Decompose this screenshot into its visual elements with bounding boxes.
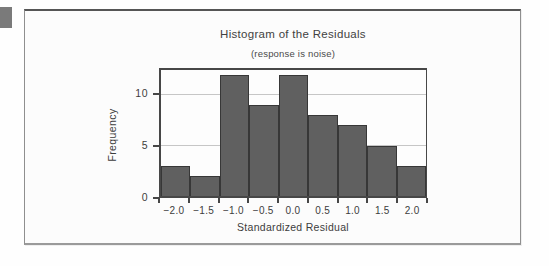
histogram-bar--1.5 [190, 176, 219, 196]
page-margin-square [0, 7, 12, 28]
x-tick-label-1: 1.0 [345, 205, 360, 216]
chart-subtitle: (response is noise) [159, 48, 427, 59]
y-tick-label-5: 5 [142, 139, 148, 151]
plot-area [159, 68, 427, 198]
histogram-bar-0 [279, 75, 308, 196]
y-axis-ticks [152, 68, 159, 198]
x-tick-label--1.5: −1.5 [193, 205, 214, 216]
x-axis-tick [366, 198, 368, 203]
x-axis-tick [426, 198, 428, 203]
y-axis-labels: 0510 [117, 68, 148, 198]
figure-panel: Histogram of the Residuals (response is … [24, 9, 521, 245]
x-tick-label-0.5: 0.5 [315, 205, 330, 216]
x-axis-tick [218, 198, 220, 203]
x-axis-title: Standardized Residual [159, 221, 427, 233]
x-tick-label--0.5: −0.5 [253, 205, 274, 216]
x-axis-labels: −2.0−1.5−1.0−0.50.00.51.01.52.0 [159, 205, 427, 217]
x-axis-tick [247, 198, 249, 203]
x-tick-label-2: 2.0 [405, 205, 420, 216]
bars-layer [161, 70, 426, 196]
x-tick-label--2: −2.0 [163, 205, 184, 216]
histogram-bar-1 [338, 125, 367, 196]
x-axis-ticks [159, 198, 427, 204]
histogram-bar-1.5 [367, 146, 396, 196]
x-axis-tick [277, 198, 279, 203]
x-axis-tick [188, 198, 190, 203]
x-axis-tick [337, 198, 339, 203]
y-tick-label-0: 0 [142, 191, 148, 203]
histogram-bar--0.5 [249, 105, 278, 196]
x-tick-label--1: −1.0 [223, 205, 244, 216]
histogram-bar--1 [220, 75, 249, 196]
x-tick-label-0: 0.0 [286, 205, 301, 216]
x-tick-label-1.5: 1.5 [375, 205, 390, 216]
x-axis-tick [307, 198, 309, 203]
histogram-bar-2 [397, 166, 426, 196]
histogram-bar-0.5 [308, 115, 337, 196]
x-axis-tick [158, 198, 160, 203]
y-tick-label-10: 10 [135, 87, 148, 99]
page-background: Histogram of the Residuals (response is … [0, 0, 549, 266]
chart-title: Histogram of the Residuals [159, 28, 427, 40]
x-axis-tick [396, 198, 398, 203]
histogram-bar--2 [161, 166, 190, 196]
